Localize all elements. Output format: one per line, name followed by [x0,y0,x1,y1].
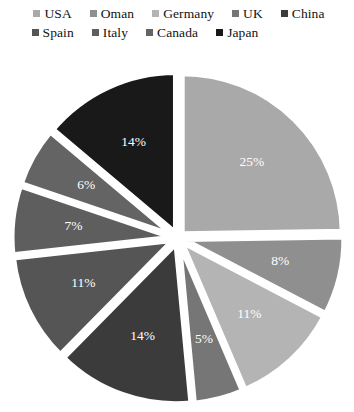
legend-swatch-icon [146,29,153,36]
pie-slice-label-china: 14% [130,328,155,343]
pie-slice-label-germany: 11% [237,306,261,321]
legend-item-china[interactable]: China [281,7,325,21]
legend-item-germany[interactable]: Germany [152,7,214,21]
pie-slice-label-uk: 5% [195,331,213,346]
legend-item-oman[interactable]: Oman [90,7,134,21]
legend-swatch-icon [90,10,97,17]
legend-item-spain[interactable]: Spain [32,26,74,40]
pie-svg: 25%8%11%5%14%11%7%6%14% [0,44,354,412]
legend-swatch-icon [216,29,223,36]
legend-row-1: USAOmanGermanyUKChina [0,4,354,23]
pie-slice-label-oman: 8% [271,253,289,268]
legend-swatch-icon [32,29,39,36]
legend-swatch-icon [33,10,40,17]
pie-slice-label-japan: 14% [121,134,146,149]
pie-slice-label-usa: 25% [239,154,264,169]
chart-legend: USAOmanGermanyUKChina SpainItalyCanadaJa… [0,4,354,42]
legend-row-2: SpainItalyCanadaJapan [0,23,354,42]
pie-slice-label-canada: 6% [77,177,95,192]
legend-item-uk[interactable]: UK [232,7,263,21]
pie-slice-label-spain: 11% [71,275,95,290]
pie-plot-area: 25%8%11%5%14%11%7%6%14% [0,44,354,412]
legend-label: China [292,7,325,21]
legend-item-usa[interactable]: USA [33,7,71,21]
legend-label: USA [44,7,71,21]
legend-item-canada[interactable]: Canada [146,26,198,40]
legend-swatch-icon [281,10,288,17]
legend-label: Japan [227,26,258,40]
legend-item-japan[interactable]: Japan [216,26,258,40]
legend-item-italy[interactable]: Italy [92,26,128,40]
legend-swatch-icon [152,10,159,17]
legend-swatch-icon [232,10,239,17]
legend-label: Canada [157,26,198,40]
legend-label: Oman [101,7,134,21]
pie-slice-label-italy: 7% [64,218,82,233]
legend-label: Spain [43,26,74,40]
pie-chart-figure: USAOmanGermanyUKChina SpainItalyCanadaJa… [0,0,354,412]
legend-swatch-icon [92,29,99,36]
legend-label: Italy [103,26,128,40]
legend-label: UK [243,7,263,21]
legend-label: Germany [163,7,214,21]
